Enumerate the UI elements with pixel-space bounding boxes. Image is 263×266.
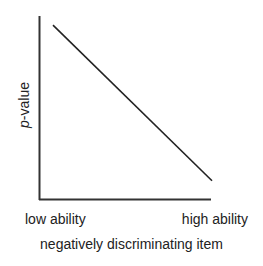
y-axis-label-italic: p (16, 120, 32, 128)
x-tick-high-ability: high ability (182, 212, 248, 226)
y-axis-label-rest: -value (16, 82, 32, 120)
chart-title: negatively discriminating item (0, 237, 263, 251)
x-tick-low-ability: low ability (25, 212, 86, 226)
y-axis-label: p-value (17, 82, 31, 128)
data-line (53, 25, 212, 181)
